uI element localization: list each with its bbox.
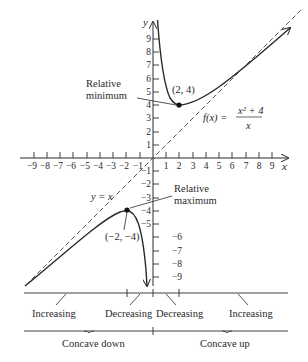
- svg-text:−6: −6: [172, 232, 182, 242]
- svg-text:4: 4: [204, 161, 209, 171]
- svg-text:x: x: [245, 120, 251, 131]
- svg-text:−2: −2: [141, 179, 151, 189]
- svg-text:−8: −8: [172, 259, 182, 269]
- interval-label-2: Decreasing: [105, 308, 153, 319]
- y-axis-label: y: [142, 16, 148, 28]
- svg-text:−3: −3: [141, 193, 151, 203]
- svg-text:7: 7: [146, 60, 151, 70]
- svg-text:−1: −1: [141, 166, 151, 176]
- relative-minimum-label-1: Relative: [86, 78, 121, 89]
- interval-label-1: Increasing: [32, 308, 76, 319]
- interval-label-3: Decreasing: [156, 308, 204, 319]
- concavity-label-down: Concave down: [62, 338, 125, 349]
- svg-text:f(x) =: f(x) =: [203, 112, 227, 124]
- svg-text:8: 8: [146, 47, 151, 57]
- asymptote-label: y = x: [90, 191, 113, 202]
- relative-maximum-label-1: Relative: [174, 183, 209, 194]
- svg-text:2: 2: [177, 161, 182, 171]
- relative-maximum-label-2: maximum: [174, 195, 217, 206]
- svg-text:3: 3: [191, 161, 196, 171]
- relative-maximum-coords: (−2, −4): [105, 231, 140, 243]
- relative-minimum-label-2: minimum: [86, 90, 127, 101]
- function-formula: f(x) = x² + 4 x: [203, 105, 264, 131]
- svg-text:2: 2: [146, 127, 151, 137]
- x-axis-label: x: [281, 160, 287, 172]
- svg-text:−5: −5: [141, 219, 151, 229]
- function-graph: x −9 −8 −7 −6 −5 −4: [0, 0, 308, 362]
- svg-text:9: 9: [270, 161, 275, 171]
- svg-text:−6: −6: [66, 161, 76, 171]
- svg-text:−4: −4: [93, 161, 103, 171]
- asymptote-line: [26, 9, 302, 285]
- svg-text:1: 1: [146, 140, 151, 150]
- svg-text:−4: −4: [141, 206, 151, 216]
- svg-text:9: 9: [146, 34, 151, 44]
- svg-text:6: 6: [146, 74, 151, 84]
- svg-text:5: 5: [217, 161, 222, 171]
- relative-maximum-point: [124, 207, 129, 212]
- svg-text:x² + 4: x² + 4: [237, 105, 264, 116]
- interval-label-4: Increasing: [229, 308, 273, 319]
- svg-text:−9: −9: [27, 161, 37, 171]
- relative-minimum-coords: (2, 4): [172, 84, 195, 96]
- relative-maximum-pointer: [124, 212, 127, 230]
- svg-text:−2: −2: [119, 161, 129, 171]
- svg-text:−8: −8: [40, 161, 50, 171]
- svg-text:−7: −7: [53, 161, 63, 171]
- svg-text:3: 3: [146, 113, 151, 123]
- relative-minimum-point: [176, 102, 181, 107]
- svg-text:−7: −7: [172, 246, 182, 256]
- concavity-label-up: Concave up: [200, 338, 250, 349]
- x-axis: x −9 −8 −7 −6 −5 −4: [20, 152, 288, 172]
- svg-text:−3: −3: [106, 161, 116, 171]
- svg-text:−5: −5: [80, 161, 90, 171]
- svg-text:1: 1: [164, 161, 169, 171]
- svg-text:8: 8: [257, 161, 262, 171]
- curve-left-branch: [25, 211, 147, 287]
- relative-maximum-leader: [130, 196, 172, 208]
- y-tick-labels-positive: 1 2 3 4 5 6 7 8 9: [146, 34, 151, 150]
- svg-text:4: 4: [146, 100, 151, 110]
- svg-text:7: 7: [244, 161, 249, 171]
- svg-text:5: 5: [146, 87, 151, 97]
- concavity-row: Concave down Concave up: [24, 327, 288, 349]
- svg-text:6: 6: [230, 161, 235, 171]
- monotonicity-row: Increasing Decreasing Decreasing Increas…: [24, 289, 288, 319]
- svg-text:−9: −9: [172, 272, 182, 282]
